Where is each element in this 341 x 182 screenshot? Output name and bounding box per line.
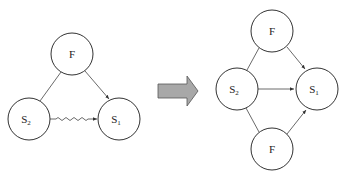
node-f-top: F — [251, 10, 293, 52]
node-f-bottom: F — [251, 128, 293, 170]
edge-fbottom-s1-arrow — [287, 110, 306, 134]
node-s2: S2 — [8, 98, 50, 140]
node-f: F — [51, 33, 93, 75]
edge-f-s2 — [40, 72, 61, 101]
edge-s2-s1-wavy-arrow — [50, 118, 97, 121]
right-graph: F S2 S1 F — [216, 10, 338, 170]
edge-ftop-s2 — [247, 48, 259, 70]
left-graph: F S2 S1 — [8, 33, 140, 140]
node-f-label: F — [69, 48, 75, 60]
node-f-bottom-label: F — [269, 143, 275, 155]
edge-s2-fbottom — [246, 108, 259, 132]
node-s2: S2 — [216, 68, 258, 110]
node-f-top-label: F — [269, 25, 275, 37]
node-s1: S1 — [98, 98, 140, 140]
transform-arrow-icon — [158, 76, 198, 106]
graph-transformation-diagram: F S2 S1 F S2 S1 F — [0, 0, 341, 182]
node-s1: S1 — [296, 68, 338, 110]
edge-f-s1-arrow — [85, 71, 109, 99]
edge-ftop-s1-arrow — [287, 47, 305, 69]
